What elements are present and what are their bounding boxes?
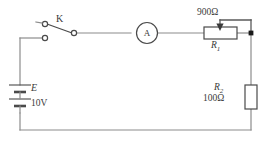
switch-terminal-right[interactable] bbox=[71, 30, 76, 35]
switch-blade[interactable] bbox=[47, 24, 72, 33]
circuit-schematic-svg bbox=[0, 0, 271, 142]
circuit-diagram: 900Ω R1 R2 100Ω K E 10V A bbox=[0, 0, 271, 142]
junction-node-dot bbox=[249, 31, 254, 36]
ammeter-label: A bbox=[139, 29, 155, 38]
r2-body bbox=[245, 85, 257, 109]
r1-value-label: 900Ω bbox=[197, 8, 218, 18]
r2-value-label: 100Ω bbox=[203, 94, 224, 104]
battery-voltage-label: 10V bbox=[31, 99, 47, 109]
battery-symbol-label: E bbox=[31, 83, 37, 93]
switch-label: K bbox=[56, 14, 63, 24]
r1-designator-label: R1 bbox=[211, 41, 220, 53]
r1-designator-subscript: 1 bbox=[217, 45, 221, 53]
switch-upper-stub bbox=[36, 22, 42, 23]
switch-terminal-lower[interactable] bbox=[42, 35, 47, 40]
switch-terminal-upper[interactable] bbox=[42, 21, 47, 26]
